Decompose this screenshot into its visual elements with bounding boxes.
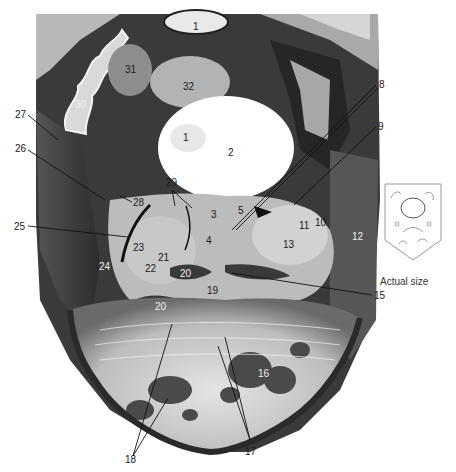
label-12: 12 <box>352 232 363 242</box>
label-1-upper: 1 <box>193 22 199 32</box>
label-24: 24 <box>99 262 110 272</box>
label-26: 26 <box>15 144 26 154</box>
label-27: 27 <box>15 110 26 120</box>
label-11: 11 <box>299 221 309 231</box>
label-4: 4 <box>206 236 212 246</box>
label-22: 22 <box>145 264 156 274</box>
label-1-ventricle: 1 <box>183 133 189 143</box>
label-3: 3 <box>211 210 217 220</box>
label-28: 28 <box>133 198 144 208</box>
label-2: 2 <box>228 148 234 158</box>
anatomical-figure: 1 1 2 3 4 5 8 9 10 11 12 13 15 16 17 18 … <box>0 0 456 472</box>
actual-size-caption: Actual size <box>380 276 428 287</box>
label-19: 19 <box>207 286 218 296</box>
label-17: 17 <box>245 447 256 457</box>
label-32: 32 <box>183 82 194 92</box>
label-10: 10 <box>315 218 326 228</box>
label-18: 18 <box>125 455 136 465</box>
label-25: 25 <box>14 222 25 232</box>
label-21: 21 <box>158 253 169 263</box>
label-8: 8 <box>379 80 385 90</box>
label-23: 23 <box>133 243 144 253</box>
label-20-upper: 20 <box>180 269 191 279</box>
label-16: 16 <box>258 369 269 379</box>
label-13: 13 <box>283 240 294 250</box>
label-9: 9 <box>378 122 384 132</box>
actual-size-outline-icon <box>383 182 443 262</box>
label-20-lower: 20 <box>155 302 166 312</box>
label-5: 5 <box>238 206 244 216</box>
label-29: 29 <box>166 178 177 188</box>
label-30: 30 <box>75 100 86 110</box>
label-31: 31 <box>125 65 136 75</box>
label-15: 15 <box>374 291 385 301</box>
